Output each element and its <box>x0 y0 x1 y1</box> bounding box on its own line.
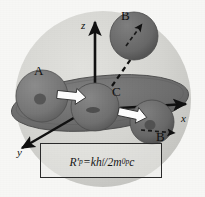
formula-equals: = <box>83 156 91 168</box>
label-axis-x: x <box>181 113 186 124</box>
label-sphere-b-lower: B <box>156 130 165 143</box>
formula-box: R'p=khf/2m0pc <box>40 143 162 178</box>
label-axis-y: y <box>17 147 22 158</box>
sphere-c-core <box>86 107 100 113</box>
label-sphere-b-upper: B <box>121 9 130 22</box>
formula-denominator-tail: c <box>129 156 134 168</box>
label-axis-z: z <box>81 20 85 31</box>
sphere-b-upper <box>110 12 158 60</box>
formula-denominator-sub: 0p <box>122 157 130 166</box>
label-sphere-a: A <box>34 64 43 77</box>
formula-expression: R'p=khf/2m0pc <box>41 144 163 179</box>
formula-denominator-coeff: 2m <box>107 156 121 168</box>
sphere-b-lower-core <box>145 120 156 130</box>
figure-canvas: A C B B z x y R'p=khf/2m0pc <box>0 0 205 197</box>
formula-lhs: R' <box>69 156 79 168</box>
sphere-a-core <box>34 94 46 105</box>
label-sphere-c: C <box>112 85 121 98</box>
formula-numerator: kh <box>91 156 102 168</box>
